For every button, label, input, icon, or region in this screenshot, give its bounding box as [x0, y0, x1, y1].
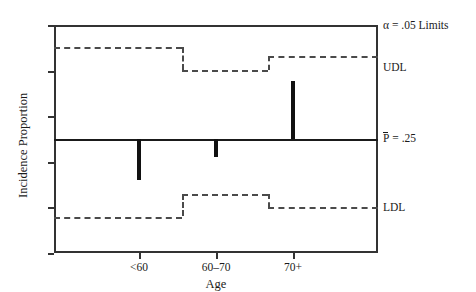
x-tick-label-70-plus: 70+: [284, 262, 302, 274]
x-tick-mark-under-60: [139, 253, 141, 259]
ldl-step-connector-2: [268, 194, 270, 208]
udl-segment-1: [54, 47, 182, 49]
ldl-segment-2: [182, 194, 268, 196]
udl-segment-2: [182, 70, 268, 72]
ldl-segment-3: [268, 207, 378, 209]
alpha-limits-label: α = .05 Limits: [383, 20, 449, 32]
udl-segment-3: [268, 56, 378, 58]
pbar-value: = .25: [389, 132, 416, 144]
udl-label: UDL: [383, 62, 407, 74]
y-axis-title: Incidence Proportion: [16, 93, 31, 198]
x-tick-mark-60-70: [216, 253, 218, 259]
udl-step-connector-1: [182, 47, 184, 70]
udl-step-connector-2: [268, 56, 270, 70]
ldl-step-connector-1: [182, 194, 184, 217]
ldl-label: LDL: [383, 202, 405, 214]
ldl-segment-1: [54, 217, 182, 219]
data-bar-70-plus: [291, 81, 295, 139]
x-tick-label-under-60: <60: [130, 262, 148, 274]
pbar-label: P = .25: [383, 133, 416, 145]
data-bar-under-60: [137, 139, 141, 180]
x-tick-mark-70-plus: [293, 253, 295, 259]
data-bar-60-70: [214, 139, 218, 157]
x-axis-title: Age: [206, 277, 227, 292]
pbar-symbol: P: [383, 133, 389, 145]
y-tick-mark-0: [48, 253, 54, 255]
x-tick-label-60-70: 60–70: [202, 262, 231, 274]
